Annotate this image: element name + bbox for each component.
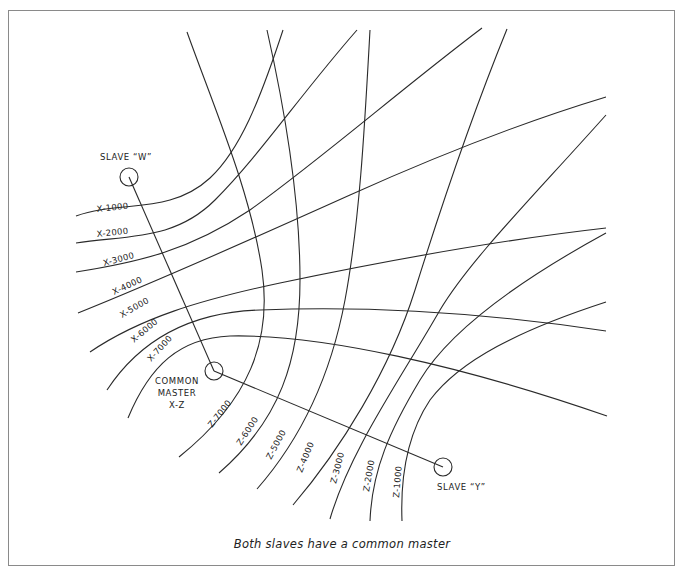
slave-w-label: SLAVE “W”: [100, 152, 152, 162]
z-4000-line: [293, 29, 507, 505]
x-7000-line: [128, 336, 607, 418]
loran-hyperbola-diagram: SLAVE “W” COMMON MASTER X-Z SLAVE “Y” X-…: [0, 0, 684, 574]
z-2000-line: [370, 233, 606, 521]
x-4000-label: X-4000: [111, 274, 144, 297]
z-7000-label: Z-7000: [206, 398, 234, 430]
x-5000-label: X-5000: [118, 295, 151, 320]
z-1000-line: [402, 302, 606, 521]
x-1000-label: X-1000: [96, 201, 129, 214]
figure-caption: Both slaves have a common master: [0, 537, 684, 551]
z-6000-label: Z-6000: [234, 415, 260, 447]
master-label-line2: MASTER: [158, 388, 197, 398]
z-5000-line: [257, 30, 370, 489]
x-1000-line: [76, 30, 283, 216]
master-label-line3: X-Z: [169, 400, 185, 410]
x-3000-label: X-3000: [102, 250, 135, 268]
z-5000-label: Z-5000: [264, 428, 288, 461]
master-label-line1: COMMON: [155, 376, 199, 386]
slave-w-station: [120, 168, 138, 186]
z-4000-label: Z-4000: [295, 440, 316, 474]
slave-y-label: SLAVE “Y”: [437, 482, 486, 492]
